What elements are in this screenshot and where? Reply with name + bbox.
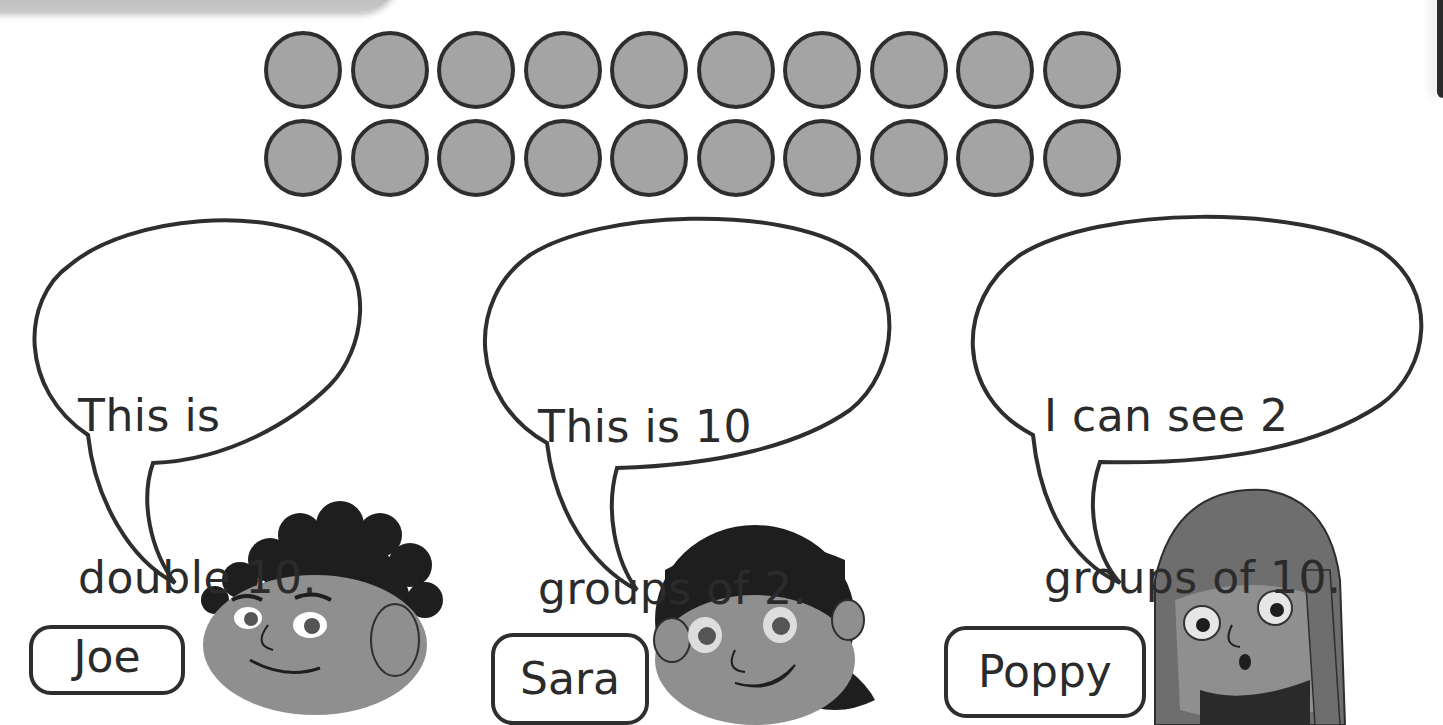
speech-line: This is bbox=[78, 389, 317, 443]
speech-text-poppy: I can see 2 groups of 10. bbox=[1044, 281, 1342, 659]
speech-line: I can see 2 bbox=[1044, 389, 1342, 443]
speech-text-joe: This is double 10. bbox=[78, 281, 317, 659]
name-tag-poppy: Poppy bbox=[944, 626, 1146, 718]
name-label: Poppy bbox=[978, 646, 1112, 697]
name-label: Joe bbox=[74, 631, 141, 682]
speech-line: groups of 2. bbox=[538, 562, 807, 616]
name-label: Sara bbox=[520, 653, 620, 704]
speech-text-sara: This is 10 groups of 2. bbox=[538, 292, 807, 670]
name-tag-sara: Sara bbox=[491, 633, 649, 725]
name-tag-joe: Joe bbox=[29, 625, 185, 695]
speech-line: groups of 10. bbox=[1044, 551, 1342, 605]
speech-line: This is 10 bbox=[538, 400, 807, 454]
speech-line: double 10. bbox=[78, 551, 317, 605]
